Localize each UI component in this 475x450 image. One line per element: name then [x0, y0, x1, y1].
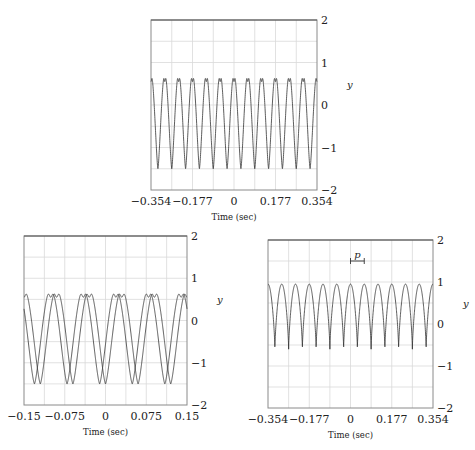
y-tick-label: 0 [191, 315, 198, 328]
period-annotation: p [351, 249, 365, 264]
y-tick-label: −1 [437, 360, 453, 373]
grid [268, 240, 433, 408]
x-tick-label: 0 [347, 413, 354, 426]
x-tick-label: 0.354 [301, 195, 333, 208]
plot-svg: −2−1012y−0.354−0.17700.1770.354Time (sec… [121, 8, 357, 230]
chart-bottom-right: p−2−1012y−0.354−0.17700.1770.354Time (se… [238, 228, 473, 450]
x-tick-label: 0.177 [260, 195, 292, 208]
y-tick-label: 1 [437, 276, 444, 289]
x-tick-label: −0.177 [289, 413, 330, 426]
x-tick-label: 0.15 [175, 410, 200, 423]
y-tick-label: 1 [191, 272, 198, 285]
plot-svg: −2−1012y−0.15−0.07500.0750.15Time (sec) [0, 224, 227, 445]
chart-bottom-left: −2−1012y−0.15−0.07500.0750.15Time (sec) [0, 224, 227, 449]
y-tick-label: 2 [321, 14, 328, 27]
x-axis-label: Time (sec) [83, 427, 128, 437]
chart-top: −2−1012y−0.354−0.17700.1770.354Time (sec… [121, 8, 357, 234]
x-tick-label: −0.15 [7, 410, 41, 423]
plot-svg: p−2−1012y−0.354−0.17700.1770.354Time (se… [238, 228, 473, 448]
y-axis-label: y [346, 79, 353, 90]
y-tick-label: 2 [191, 230, 198, 243]
y-tick-label: 2 [437, 234, 444, 247]
y-tick-label: −1 [321, 142, 337, 155]
x-axis-label: Time (sec) [212, 212, 257, 222]
grid [151, 20, 317, 190]
y-tick-label: −1 [191, 357, 207, 370]
y-tick-label: 0 [437, 318, 444, 331]
annotation-label: p [354, 249, 361, 260]
y-axis-label: y [462, 298, 469, 309]
x-axis-label: Time (sec) [328, 430, 373, 440]
x-tick-label: 0.354 [417, 413, 449, 426]
x-tick-label: 0 [102, 410, 109, 423]
y-axis-label: y [216, 294, 223, 305]
x-tick-label: 0.075 [131, 410, 163, 423]
x-tick-label: −0.075 [44, 410, 85, 423]
x-tick-label: 0 [231, 195, 238, 208]
y-tick-label: 1 [321, 57, 328, 70]
x-tick-label: −0.354 [248, 413, 289, 426]
x-tick-label: −0.354 [131, 195, 172, 208]
grid [24, 236, 187, 405]
x-tick-label: 0.177 [376, 413, 408, 426]
y-tick-label: 0 [321, 99, 328, 112]
x-tick-label: −0.177 [172, 195, 213, 208]
